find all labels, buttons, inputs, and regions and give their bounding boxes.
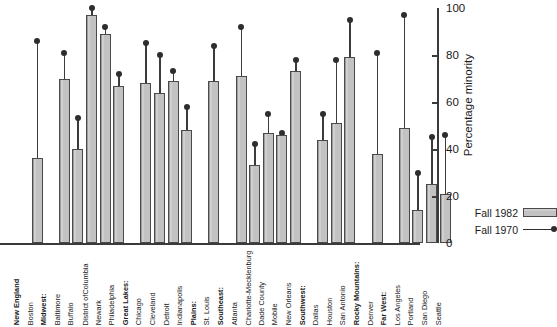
fall-1970-dot bbox=[170, 68, 176, 74]
bar-group bbox=[181, 8, 192, 243]
fall-1970-dot bbox=[415, 170, 421, 176]
fall-1970-dot bbox=[252, 141, 258, 147]
bar-group bbox=[399, 8, 410, 243]
bar-group bbox=[440, 8, 451, 243]
fall-1982-bar bbox=[290, 71, 301, 243]
fall-1982-bar bbox=[208, 81, 219, 243]
bar-group bbox=[276, 8, 287, 243]
y-axis-tick bbox=[432, 102, 439, 104]
category-label: Southwest: bbox=[298, 285, 306, 325]
bar-group bbox=[168, 8, 179, 243]
legend-swatch-icon bbox=[523, 208, 557, 217]
category-label: Denver bbox=[366, 301, 374, 325]
fall-1970-dot bbox=[116, 71, 122, 77]
category-label: Boston bbox=[26, 302, 34, 325]
bar-group bbox=[331, 8, 342, 243]
category-label: Plains: bbox=[190, 301, 198, 325]
category-label: Dallas bbox=[312, 304, 320, 325]
bar-group bbox=[412, 8, 423, 243]
fall-1982-bar bbox=[263, 133, 274, 243]
bar-group bbox=[72, 8, 83, 243]
y-axis-tick-label: 80 bbox=[446, 50, 459, 62]
y-axis-tick bbox=[432, 196, 439, 198]
fall-1982-bar bbox=[331, 123, 342, 243]
fall-1970-dot bbox=[75, 115, 81, 121]
fall-1970-dot bbox=[61, 50, 67, 56]
bar-group bbox=[344, 8, 355, 243]
fall-1970-dot bbox=[34, 38, 40, 44]
y-axis-tick bbox=[432, 55, 439, 57]
legend-label-fall-1982: Fall 1982 bbox=[475, 207, 518, 219]
chart-legend: Fall 1982 Fall 1970 bbox=[465, 204, 557, 238]
fall-1970-dot bbox=[238, 24, 244, 30]
category-label: Far West: bbox=[380, 291, 388, 325]
legend-line-dot-icon bbox=[523, 225, 557, 234]
category-label: Baltimore bbox=[54, 294, 62, 325]
y-axis-tick-label: 60 bbox=[446, 97, 459, 109]
category-label: Buffalo bbox=[67, 302, 75, 325]
fall-1982-bar bbox=[236, 76, 247, 243]
bar-group bbox=[208, 8, 219, 243]
fall-1982-bar bbox=[72, 149, 83, 243]
category-label: New Orleans bbox=[285, 282, 293, 325]
category-labels: New EnglandBostonMidwest:BaltimoreBuffal… bbox=[18, 250, 438, 327]
category-label: Dade County bbox=[258, 282, 266, 325]
legend-item-fall-1970: Fall 1970 bbox=[465, 221, 557, 238]
fall-1982-bar bbox=[100, 34, 111, 243]
category-label: Seattle bbox=[434, 302, 442, 325]
category-label: Southeast: bbox=[217, 287, 225, 325]
legend-item-fall-1982: Fall 1982 bbox=[465, 204, 557, 221]
fall-1970-dot bbox=[211, 43, 217, 49]
bar-group bbox=[317, 8, 328, 243]
bar-group bbox=[32, 8, 43, 243]
fall-1970-dot bbox=[157, 52, 163, 58]
bar-group bbox=[263, 8, 274, 243]
fall-1982-bar bbox=[59, 79, 70, 244]
category-label: Great Lakes: bbox=[122, 280, 130, 325]
category-label: Detroit bbox=[162, 303, 170, 325]
y-axis-tick-label: 100 bbox=[446, 3, 465, 15]
category-label: Indianapolis bbox=[176, 286, 184, 325]
y-axis-tick-label: 0 bbox=[446, 238, 452, 250]
fall-1970-dot bbox=[102, 24, 108, 30]
category-label: Charlotte-Mecklenburg bbox=[245, 250, 252, 325]
category-label: San Diego bbox=[421, 290, 429, 325]
category-label: New England bbox=[13, 279, 21, 325]
fall-1982-bar bbox=[249, 165, 260, 243]
bar-group bbox=[140, 8, 151, 243]
fall-1970-dot bbox=[89, 5, 95, 11]
bar-group bbox=[426, 8, 437, 243]
fall-1970-dot bbox=[333, 57, 339, 63]
fall-1982-bar bbox=[344, 57, 355, 243]
bar-group bbox=[249, 8, 260, 243]
bar-group bbox=[100, 8, 111, 243]
bar-group bbox=[113, 8, 124, 243]
fall-1970-dot bbox=[442, 132, 448, 138]
category-label: Los Angeles bbox=[394, 285, 402, 325]
fall-1982-bar bbox=[140, 83, 151, 243]
category-label: Cleveland bbox=[149, 292, 157, 325]
category-label: Philadelphia bbox=[108, 285, 116, 325]
fall-1982-bar bbox=[317, 140, 328, 243]
fall-1982-bar bbox=[168, 81, 179, 243]
category-label: Portland bbox=[407, 297, 415, 325]
category-label: Houston bbox=[326, 297, 334, 325]
plot-area bbox=[18, 8, 432, 243]
bar-group bbox=[86, 8, 97, 243]
bar-group bbox=[372, 8, 383, 243]
fall-1970-dot bbox=[347, 17, 353, 23]
bar-group bbox=[290, 8, 301, 243]
fall-1982-bar bbox=[86, 15, 97, 243]
category-label-slot: Seattle bbox=[440, 250, 451, 325]
category-label: Mobile bbox=[271, 303, 279, 325]
x-axis-baseline bbox=[0, 243, 420, 245]
fall-1982-bar bbox=[181, 130, 192, 243]
y-axis-title: Percentage minority bbox=[462, 54, 474, 156]
fall-1982-bar bbox=[372, 154, 383, 243]
fall-1982-bar bbox=[399, 128, 410, 243]
category-label: Rocky Mountains: bbox=[353, 261, 361, 325]
fall-1970-dot bbox=[184, 104, 190, 110]
fall-1982-bar bbox=[113, 86, 124, 243]
category-label: San Antonio bbox=[339, 285, 347, 325]
y-axis-cap bbox=[437, 8, 439, 14]
